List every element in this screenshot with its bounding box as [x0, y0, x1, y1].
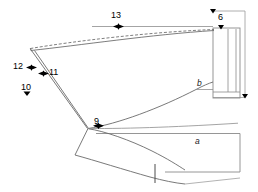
blade-bottom-right-close — [185, 178, 240, 184]
marker-11-double-arrow — [38, 71, 49, 77]
blade-upper-left-segment — [75, 129, 88, 156]
technical-drawing-figure: 13 6 12 11 10 9 b a — [0, 0, 258, 192]
label-10: 10 — [21, 83, 31, 92]
marker-6-arrow-down — [218, 25, 224, 30]
solid-upper-profile — [31, 31, 214, 51]
drawing-canvas — [0, 0, 258, 192]
label-13: 13 — [111, 11, 121, 20]
marker-10-arrow-down — [24, 92, 31, 97]
leading-edge-line-outer — [31, 50, 88, 129]
label-b: b — [197, 79, 202, 88]
marker-12-double-arrow — [26, 65, 37, 71]
label-9: 9 — [94, 117, 99, 126]
leading-edge-line-inner — [35, 51, 89, 129]
label-6: 6 — [218, 13, 223, 22]
blade-bottom-curve — [75, 155, 185, 184]
blade-inner-edge — [89, 129, 186, 170]
label-a: a — [195, 137, 200, 146]
curve-b — [88, 82, 213, 129]
marker-13-double-arrow — [113, 24, 124, 30]
label-12: 12 — [13, 62, 23, 71]
label-11: 11 — [49, 68, 58, 77]
